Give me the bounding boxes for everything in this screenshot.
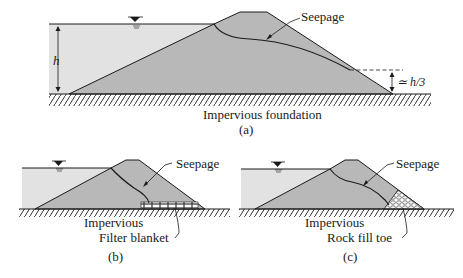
caption-a: (a) <box>239 123 253 136</box>
seepage-label-a: Seepage <box>301 10 344 23</box>
seepage-label-c: Seepage <box>396 157 439 170</box>
foundation-label-b: Impervious <box>84 216 143 229</box>
foundation-hatch-a <box>49 94 201 106</box>
rock-fill-toe-label-c: Rock fill toe <box>327 231 392 244</box>
caption-b: (b) <box>108 250 123 263</box>
filter-blanket-b <box>141 202 198 209</box>
diagram-canvas <box>0 0 463 278</box>
filter-blanket-label-b: Filter blanket <box>99 231 169 244</box>
height-label-a: h <box>53 54 60 67</box>
foundation-label-a: Impervious foundation <box>203 108 322 121</box>
tailwater-label-a: ≃ h/3 <box>397 76 425 88</box>
foundation-label-c: Impervious <box>305 216 364 229</box>
seepage-label-b: Seepage <box>176 157 219 170</box>
tailwater-arrow-a <box>390 72 395 92</box>
panel-a <box>49 12 431 106</box>
caption-c: (c) <box>343 250 357 263</box>
